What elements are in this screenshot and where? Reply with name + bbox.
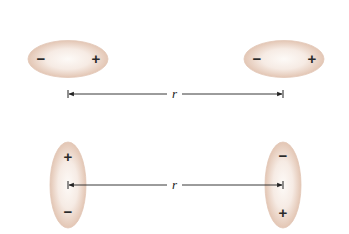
negative-charge-sign: − — [64, 203, 73, 220]
negative-charge-sign: − — [253, 50, 262, 67]
top-left-dipole: − + — [28, 41, 108, 78]
positive-charge-sign: + — [92, 50, 101, 67]
distance-label-r: r — [172, 86, 178, 101]
negative-charge-sign: − — [37, 50, 46, 67]
top-distance-arrow: r — [68, 86, 283, 101]
top-row: − + − + r — [28, 41, 324, 102]
distance-label-r: r — [172, 177, 178, 192]
positive-charge-sign: + — [64, 148, 73, 165]
positive-charge-sign: + — [279, 204, 288, 221]
bottom-row: + − − + r — [50, 142, 301, 228]
top-right-dipole: − + — [244, 41, 324, 78]
dipole-distance-diagram: − + − + r + − − + — [0, 0, 349, 234]
positive-charge-sign: + — [308, 50, 317, 67]
bottom-distance-arrow: r — [68, 177, 283, 192]
negative-charge-sign: − — [279, 147, 288, 164]
